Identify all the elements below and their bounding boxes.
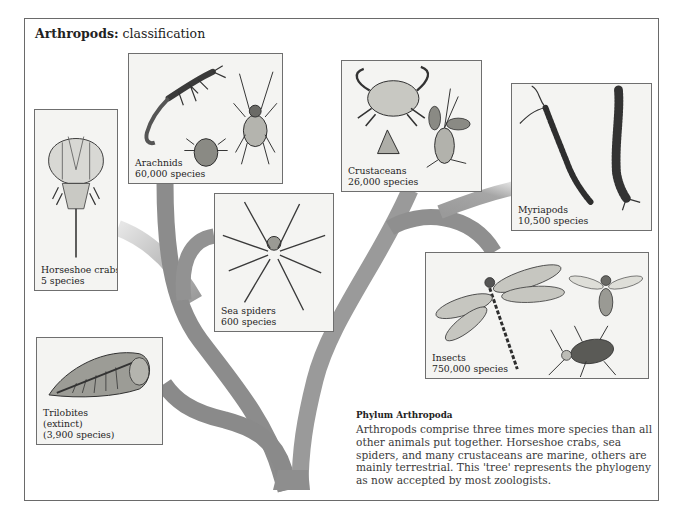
group-label: Insects 750,000 species — [432, 352, 508, 374]
panel-trilobites: Trilobites (extinct) (3,900 species) — [36, 337, 163, 445]
group-name: Horseshoe crabs — [41, 264, 118, 275]
panel-crustaceans: Crustaceans 26,000 species — [341, 60, 482, 192]
group-name: Insects — [432, 352, 508, 363]
group-label: Crustaceans 26,000 species — [348, 165, 418, 187]
group-name: Arachnids — [135, 157, 205, 168]
panel-sea-spiders: Sea spiders 600 species — [214, 193, 334, 332]
species-count: 750,000 species — [432, 363, 508, 374]
group-label: Trilobites (extinct) (3,900 species) — [43, 407, 115, 440]
species-count: 600 species — [221, 316, 276, 327]
branch-trilobites — [164, 384, 288, 490]
panel-horseshoe-crabs: Horseshoe crabs 5 species — [34, 109, 118, 291]
group-label: Arachnids 60,000 species — [135, 157, 205, 179]
species-count: 5 species — [41, 275, 118, 286]
caption-body: Arthropods comprise three times more spe… — [356, 423, 656, 487]
group-name: Crustaceans — [348, 165, 418, 176]
caption-block: Phylum Arthropoda Arthropods comprise th… — [356, 410, 656, 487]
species-count: 10,500 species — [518, 215, 588, 226]
group-name: Myriapods — [518, 204, 588, 215]
species-count: 60,000 species — [135, 168, 205, 179]
group-label: Myriapods 10,500 species — [518, 204, 588, 226]
panel-myriapods: Myriapods 10,500 species — [511, 83, 652, 231]
group-status: (extinct) — [43, 418, 115, 429]
species-count: (3,900 species) — [43, 429, 115, 440]
panel-insects: Insects 750,000 species — [425, 252, 649, 379]
group-label: Horseshoe crabs 5 species — [41, 264, 118, 286]
horseshoe-crab-icon — [35, 110, 117, 290]
branch-insects — [390, 217, 494, 252]
panel-arachnids: Arachnids 60,000 species — [128, 53, 283, 184]
group-label: Sea spiders 600 species — [221, 305, 276, 327]
group-name: Sea spiders — [221, 305, 276, 316]
caption-heading: Phylum Arthropoda — [356, 410, 656, 420]
species-count: 26,000 species — [348, 176, 418, 187]
group-name: Trilobites — [43, 407, 115, 418]
tree-trunk — [273, 470, 310, 490]
